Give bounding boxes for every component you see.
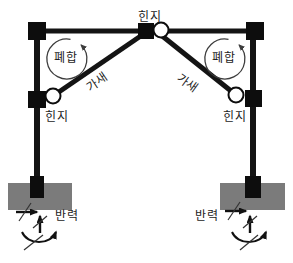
label-closure-right: 폐합 — [212, 52, 235, 65]
node-hinge-left — [28, 91, 46, 108]
reaction-moment-arc-right — [232, 232, 266, 242]
label-hinge-left: 힌지 — [45, 111, 68, 124]
node-top-left — [28, 22, 46, 40]
node-apex — [138, 23, 154, 39]
hinge-circle-left — [46, 89, 61, 104]
reaction-moment-slash-right — [240, 235, 258, 250]
node-top-right — [246, 22, 264, 40]
hinge-circle-top — [154, 23, 169, 38]
reaction-symbols-left — [16, 203, 56, 250]
base-left — [30, 176, 44, 198]
frame-drawing — [0, 0, 293, 263]
label-hinge-right: 힌지 — [223, 111, 246, 124]
reaction-moment-arc-left — [22, 232, 56, 242]
hinge-circle-right — [229, 88, 244, 103]
label-closure-left: 폐합 — [54, 52, 77, 65]
label-reaction-right: 반력 — [195, 210, 218, 223]
node-hinge-right — [245, 90, 262, 107]
structural-frame-diagram: 힌지 힌지 힌지 폐합 폐합 가새 가새 반력 반력 — [0, 0, 293, 263]
label-hinge-top: 힌지 — [138, 11, 161, 24]
label-reaction-left: 반력 — [55, 210, 78, 223]
base-right — [245, 176, 261, 198]
